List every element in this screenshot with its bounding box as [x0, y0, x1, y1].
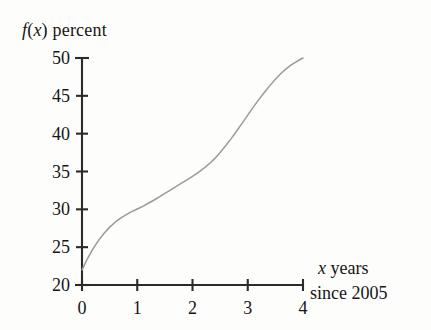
data-curves: [82, 58, 303, 270]
plot-area: [0, 0, 431, 330]
axes: [75, 58, 303, 291]
chart-figure: f(x) percent x years since 2005 20253035…: [0, 0, 431, 330]
data-curve: [82, 58, 303, 270]
